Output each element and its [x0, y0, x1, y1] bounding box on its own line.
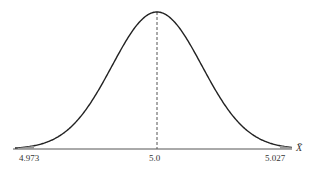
- density-curve: [15, 12, 292, 148]
- tick-label-left: 4.973: [19, 154, 39, 163]
- normal-curve-plot: [0, 0, 313, 173]
- tick-label-center: 5.0: [149, 154, 160, 163]
- axis-label-xbar: X̄: [296, 143, 302, 153]
- tick-label-right: 5.027: [265, 154, 285, 163]
